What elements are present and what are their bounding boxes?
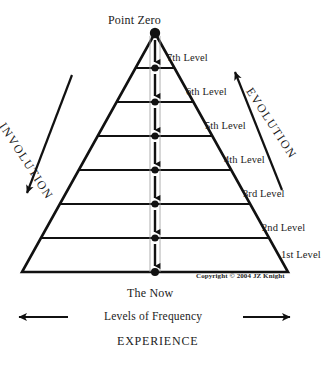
- level-label-6: 6th Level: [186, 86, 227, 97]
- node-level-4: [151, 166, 158, 173]
- node-the-now: [151, 268, 159, 276]
- copyright-notice: Copyright © 2004 JZ Knight: [196, 272, 285, 280]
- the-now-label: The Now: [127, 286, 173, 301]
- level-label-2: 2nd Level: [262, 222, 305, 233]
- node-point-zero: [150, 28, 160, 38]
- level-label-4: 4th Level: [224, 154, 265, 165]
- experience-label: EXPERIENCE: [117, 334, 198, 349]
- node-level-3: [151, 200, 158, 207]
- node-level-5: [151, 132, 158, 139]
- node-level-2: [151, 234, 158, 241]
- point-zero-label: Point Zero: [108, 13, 161, 28]
- node-level-6: [151, 98, 158, 105]
- level-label-1: 1st Level: [281, 249, 321, 260]
- pyramid-diagram: Point Zero 7th Level 6th Level 5th Level…: [0, 0, 335, 366]
- level-label-3: 3rd Level: [243, 188, 284, 199]
- level-label-7: 7th Level: [167, 52, 208, 63]
- level-label-5: 5th Level: [205, 120, 246, 131]
- levels-of-frequency-label: Levels of Frequency: [104, 310, 202, 322]
- node-level-7: [151, 64, 158, 71]
